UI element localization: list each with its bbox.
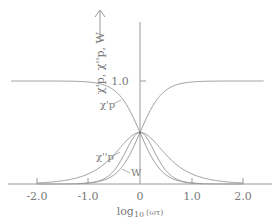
label-w: W: [131, 167, 142, 178]
leader-w: [122, 169, 130, 173]
x-tick-label-2: 2.0: [234, 190, 252, 203]
x-tick-label-neg2: -2.0: [26, 190, 47, 203]
chart: 1.0 -2.0 -1.0 0 1.0 2.0 log10(ωτ) χ'p, χ…: [0, 0, 278, 220]
x-tick-label-0: 0: [137, 190, 144, 203]
curve-chi-prime-decreasing: [11, 81, 202, 184]
label-chi-double-prime: χ''p: [96, 151, 114, 162]
y-tick-label-1: 1.0: [111, 75, 129, 88]
crossing-point: [139, 131, 142, 134]
chart-svg: 1.0 -2.0 -1.0 0 1.0 2.0 log10(ωτ) χ'p, χ…: [0, 0, 278, 220]
label-chi-prime: χ'p: [100, 99, 115, 110]
x-tick-label-neg1: -1.0: [77, 190, 98, 203]
y-axis-title: χ'p, χ''p, W: [94, 31, 107, 93]
x-tick-label-1: 1.0: [183, 190, 201, 203]
x-axis-title: log10(ωτ): [117, 205, 164, 219]
curve-chi-prime-increasing: [78, 81, 263, 184]
